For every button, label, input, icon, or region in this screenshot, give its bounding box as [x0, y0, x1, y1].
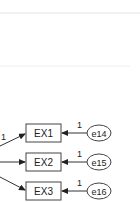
- loading-label-ex1: 1: [1, 132, 6, 142]
- loading-arrow-ex3: [0, 177, 25, 190]
- observed-variable-ex2[interactable]: EX2: [26, 153, 61, 171]
- observed-variable-ex3[interactable]: EX3: [26, 182, 61, 200]
- error-term-e16[interactable]: e16: [87, 183, 111, 199]
- error-weight-e15: 1: [77, 149, 82, 159]
- ex1-label: EX1: [34, 128, 53, 139]
- error-term-e14[interactable]: e14: [87, 125, 111, 141]
- error-weight-e16: 1: [77, 178, 82, 188]
- e16-label: e16: [91, 187, 106, 197]
- ex2-label: EX2: [34, 157, 53, 168]
- e15-label: e15: [91, 158, 106, 168]
- error-term-e15[interactable]: e15: [87, 154, 111, 170]
- observed-variable-ex1[interactable]: EX1: [26, 124, 61, 142]
- ex3-label: EX3: [34, 186, 53, 197]
- e14-label: e14: [91, 129, 106, 139]
- error-weight-e14: 1: [77, 120, 82, 130]
- path-diagram: 1 EX1 EX2 EX3 1 1 1 e14 e15 e16: [0, 0, 140, 202]
